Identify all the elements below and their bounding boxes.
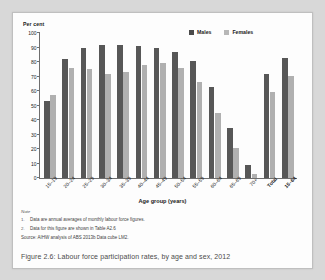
x-axis-tick-cell: 50–54 xyxy=(168,179,186,186)
note-row: 1.Data are annual averages of monthly la… xyxy=(21,217,304,222)
bar-females xyxy=(105,74,111,178)
bar-females xyxy=(233,148,239,178)
bar-series-container xyxy=(41,33,297,178)
bar-females xyxy=(50,95,56,178)
bar-females xyxy=(142,65,148,178)
y-axis-tick-mark-70 xyxy=(37,76,40,77)
bar-group xyxy=(96,33,114,178)
bar-group xyxy=(279,33,297,178)
x-axis-tick-cell: 35–39 xyxy=(113,179,131,186)
notes-heading: Note xyxy=(21,209,304,214)
bar-females xyxy=(69,68,75,178)
bar-males xyxy=(44,101,50,178)
x-axis-title: Age group (years) xyxy=(13,198,312,204)
x-axis-tick-cell: 65–69 xyxy=(224,179,242,186)
y-axis-unit-label: Per cent xyxy=(23,21,44,27)
bar-group xyxy=(132,33,150,178)
bar-males xyxy=(264,74,270,178)
bar-males xyxy=(227,128,233,178)
y-axis-tick-mark-90 xyxy=(37,47,40,48)
y-axis-tick-mark-10 xyxy=(37,163,40,164)
figure-caption: Figure 2.6: Labour force participation r… xyxy=(21,253,304,260)
x-axis-tick-cell: 15–19 xyxy=(40,179,58,186)
plot-frame: 0102030405060708090100 xyxy=(39,33,297,179)
source-line: Source: AIHW analysis of ABS 2013b Data … xyxy=(21,235,304,240)
bar-males xyxy=(245,165,251,178)
bar-females xyxy=(160,63,166,178)
bar-group xyxy=(114,33,132,178)
bar-group xyxy=(169,33,187,178)
bar-group xyxy=(205,33,223,178)
y-axis-tick-mark-40 xyxy=(37,119,40,120)
x-axis-tick-cell: 20–24 xyxy=(58,179,76,186)
bar-females xyxy=(288,76,294,178)
bar-males xyxy=(282,58,288,178)
notes-list: 1.Data are annual averages of monthly la… xyxy=(21,217,304,231)
bar-females xyxy=(178,68,184,178)
bar-females xyxy=(215,113,221,178)
x-axis-tick-cell: 15–64 xyxy=(279,179,297,186)
bar-group xyxy=(187,33,205,178)
bar-group xyxy=(41,33,59,178)
y-axis-tick-mark-60 xyxy=(37,90,40,91)
bar-group xyxy=(77,33,95,178)
bar-males xyxy=(190,61,196,178)
x-axis-tick-cell: 40–44 xyxy=(132,179,150,186)
x-axis-tick-cell: Total xyxy=(260,179,278,186)
y-axis-tick-mark-20 xyxy=(37,148,40,149)
y-axis-tick-mark-30 xyxy=(37,134,40,135)
bar-males xyxy=(81,48,87,179)
y-axis-tick-mark-80 xyxy=(37,61,40,62)
figure-notes: Note 1.Data are annual averages of month… xyxy=(21,209,304,240)
bar-group xyxy=(224,33,242,178)
x-axis-tick-cell: 70+ xyxy=(242,179,260,186)
bar-males xyxy=(136,46,142,178)
screenshot-page: Per cent Males Females 01020304050607080… xyxy=(0,0,325,280)
bar-males xyxy=(154,48,160,178)
plot-area: 0102030405060708090100 xyxy=(39,33,297,179)
bar-males xyxy=(117,45,123,178)
x-axis-tick-cell: 55–59 xyxy=(187,179,205,186)
bar-group xyxy=(59,33,77,178)
bar-females xyxy=(123,72,129,178)
note-text: Data are annual averages of monthly labo… xyxy=(30,217,145,222)
chart-container: Per cent Males Females 01020304050607080… xyxy=(13,13,312,209)
bar-males xyxy=(209,87,215,178)
bar-group xyxy=(260,33,278,178)
bar-males xyxy=(172,52,178,178)
y-axis-tick-mark-50 xyxy=(37,105,40,106)
note-number: 2. xyxy=(21,226,25,231)
y-axis-tick-mark-100 xyxy=(37,32,40,33)
x-axis-tick-cell: 60–64 xyxy=(205,179,223,186)
figure-card: Per cent Males Females 01020304050607080… xyxy=(12,12,313,269)
note-number: 1. xyxy=(21,217,25,222)
note-row: 2.Data for this figure are shown in Tabl… xyxy=(21,226,304,231)
x-axis-tick-label: 70+ xyxy=(248,177,258,187)
bar-females xyxy=(197,82,203,178)
bar-females xyxy=(87,69,93,178)
x-axis-tick-labels: 15–1920–2425–2930–3435–3940–4445–4950–54… xyxy=(40,179,297,186)
bar-group xyxy=(242,33,260,178)
note-text: Data for this figure are shown in Table … xyxy=(30,226,116,231)
y-axis-tick-mark-0 xyxy=(37,177,40,178)
bar-females xyxy=(270,92,276,178)
bar-males xyxy=(62,59,68,178)
x-axis-tick-cell: 25–29 xyxy=(77,179,95,186)
bar-males xyxy=(99,45,105,178)
x-axis-tick-cell: 45–49 xyxy=(150,179,168,186)
bar-group xyxy=(151,33,169,178)
x-axis-tick-cell: 30–34 xyxy=(95,179,113,186)
